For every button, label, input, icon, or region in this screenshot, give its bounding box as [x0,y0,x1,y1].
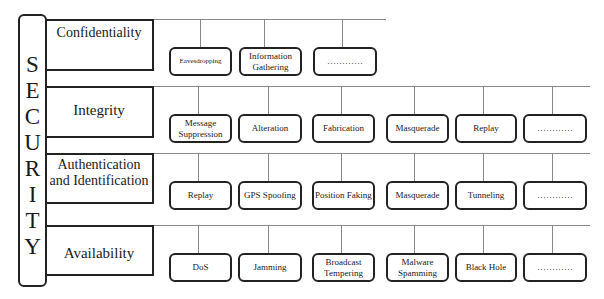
threat-node: DoS [169,253,232,282]
connector-line [552,86,553,114]
connector-line [268,153,269,181]
threat-node: Replay [169,181,232,210]
connector-line [268,225,269,253]
threat-node: Replay [455,114,517,143]
threat-node: Position Faking [312,181,375,210]
security-letter: S [26,52,39,78]
connector-line [552,153,553,181]
connector-line [198,153,199,181]
connector-line [341,86,342,114]
connector-line [483,153,484,181]
threat-node: Malware Spamming [386,253,449,282]
connector-line [154,153,590,154]
threat-node: ………… [523,181,587,210]
connector-line [414,225,415,253]
security-letter: E [25,78,39,104]
connector-line [264,19,265,47]
threat-node: ………… [523,114,587,143]
category-authentication: Authentication and Identification [46,153,154,204]
connector-line [198,86,199,114]
security-letter: T [25,208,39,234]
category-label: Integrity [46,102,152,118]
category-label: Authentication and Identification [46,157,152,189]
security-letter: U [24,130,41,156]
connector-line [200,19,201,47]
threat-node: Information Gathering [239,47,302,76]
connector-line [483,86,484,114]
connector-line [154,19,386,20]
threat-node: Masquerade [386,181,449,210]
connector-line [342,19,343,47]
security-letter: R [25,156,40,182]
category-label: Confidentiality [46,25,152,41]
threat-node: Alteration [238,114,302,143]
threat-node: Broadcast Tempering [312,253,375,282]
threat-node: Eavesdropping [169,47,232,76]
connector-line [341,225,342,253]
threat-node: Masquerade [386,114,449,143]
threat-node: ………… [313,47,377,76]
security-letter: C [25,104,40,130]
threat-node: Black Hole [455,253,517,282]
category-confidentiality: Confidentiality [46,19,154,71]
threat-node: Tunneling [455,181,517,210]
connector-line [268,86,269,114]
connector-line [414,153,415,181]
connector-line [483,225,484,253]
connector-line [414,86,415,114]
threat-node: Jamming [238,253,302,282]
connector-line [154,86,590,87]
security-letter: Y [24,234,41,260]
connector-line [552,225,553,253]
category-availability: Availability [46,225,154,276]
threat-node: Fabrication [312,114,375,143]
connector-line [341,153,342,181]
threat-node: Message Suppression [169,114,232,143]
category-integrity: Integrity [46,86,154,138]
category-label: Availability [46,245,152,261]
threat-node: ………… [523,253,587,282]
connector-line [198,225,199,253]
threat-node: GPS Spoofing [238,181,302,210]
security-root-box: S E C U R I T Y [18,14,47,287]
connector-line [154,225,590,226]
security-letter: I [29,182,37,208]
